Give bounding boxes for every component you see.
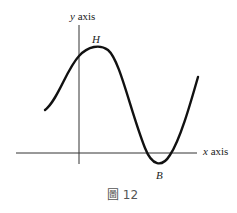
x-axis-word: axis bbox=[211, 145, 229, 157]
curve bbox=[45, 47, 198, 164]
graph-canvas bbox=[0, 0, 237, 213]
y-axis-var: y bbox=[70, 10, 75, 22]
x-axis-var: x bbox=[203, 145, 208, 157]
y-axis-label: y axis bbox=[70, 11, 95, 22]
label-b: B bbox=[156, 170, 163, 181]
label-h: H bbox=[92, 34, 100, 45]
figure-caption: 圖 12 bbox=[107, 189, 138, 201]
y-axis-word: axis bbox=[78, 10, 96, 22]
x-axis-label: x axis bbox=[203, 146, 228, 157]
